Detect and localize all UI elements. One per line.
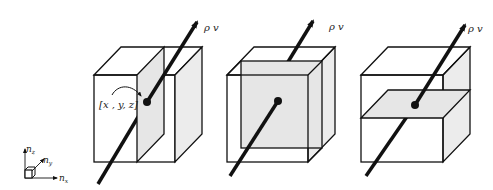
diagram-canvas: [x , y, z] ρ v ρ v ρ v nz ny nx <box>0 0 493 190</box>
flux-label: ρ v <box>467 23 483 34</box>
point-marker <box>274 97 282 105</box>
flux-label: ρ v <box>203 22 219 33</box>
cut-plane <box>137 47 164 162</box>
flux-label: ρ v <box>328 21 344 32</box>
x-axis-label: nx <box>59 173 69 184</box>
y-axis-label: ny <box>43 155 53 167</box>
panel-z-plane: ρ v <box>361 23 483 176</box>
unit-cube-icon <box>25 170 32 178</box>
point-marker <box>143 98 151 106</box>
point-marker <box>411 101 419 109</box>
panel-x-plane: [x , y, z] ρ v <box>94 22 219 184</box>
panel-y-plane: ρ v <box>227 21 344 176</box>
cube-side-face <box>175 47 202 162</box>
z-axis-label: nz <box>26 144 36 155</box>
axes-legend: nz ny nx <box>25 144 69 184</box>
point-label: [x , y, z] <box>99 99 138 110</box>
